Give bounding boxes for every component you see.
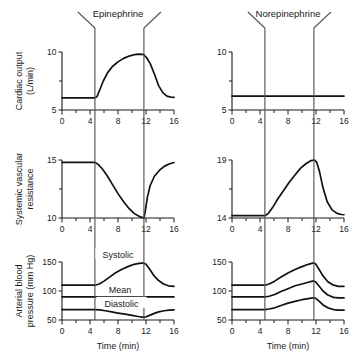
x-tick-label: 16 xyxy=(169,224,179,234)
y-axis-title-arterial-blood-pressure: Arterial bloodpressure (mm Hg) xyxy=(14,255,35,328)
y-axis-title-line1: Cardiac output xyxy=(14,51,24,110)
y-tick-label: 150 xyxy=(212,257,226,267)
curve-label-text-diastolic: Diastolic xyxy=(104,299,139,309)
x-tick-label: 8 xyxy=(116,224,121,234)
panel-title-norepinephrine: Norepinephrine xyxy=(256,8,321,19)
x-tick-label: 16 xyxy=(339,116,349,126)
x-axis-title-norepinephrine: Time (min) xyxy=(267,341,310,351)
x-tick-label: 12 xyxy=(141,116,151,126)
curve-systemic-vascular-resistance xyxy=(232,160,344,216)
curve-label-text-systolic: Systolic xyxy=(102,250,134,260)
physiology-figure: 5100481216510048121610150481216141904812… xyxy=(0,0,354,362)
curve-mean xyxy=(232,281,344,298)
x-tick-label: 0 xyxy=(60,224,65,234)
x-tick-label: 0 xyxy=(230,326,235,336)
panel-svr-epinephrine: 10150481216 xyxy=(47,155,179,234)
x-tick-label: 0 xyxy=(230,116,235,126)
curve-diastolic xyxy=(62,310,174,318)
x-tick-label: 12 xyxy=(141,326,151,336)
panel-cardiac-output-epinephrine: 5100481216 xyxy=(47,47,179,126)
x-tick-label: 12 xyxy=(311,224,321,234)
x-tick-label: 0 xyxy=(60,326,65,336)
x-tick-label: 4 xyxy=(258,116,263,126)
y-axis-title-line2: pressure (mm Hg) xyxy=(25,255,35,328)
panel-cardiac-output-norepinephrine: 5100481216 xyxy=(217,47,349,126)
x-tick-label: 8 xyxy=(286,326,291,336)
x-tick-label: 4 xyxy=(88,116,93,126)
x-tick-label: 16 xyxy=(339,224,349,234)
panel-svr-norepinephrine: 14190481216 xyxy=(217,155,349,234)
curve-label-diastolic: Diastolic xyxy=(96,297,146,309)
y-tick-label: 19 xyxy=(217,155,227,165)
x-tick-label: 8 xyxy=(286,224,291,234)
curve-diastolic xyxy=(232,298,344,310)
curve-systolic xyxy=(232,263,344,286)
x-tick-label: 4 xyxy=(88,224,93,234)
x-tick-label: 16 xyxy=(169,116,179,126)
x-tick-label: 0 xyxy=(60,116,65,126)
y-axis-title-line1: Arterial blood xyxy=(14,264,24,317)
y-tick-label: 150 xyxy=(42,257,56,267)
x-tick-label: 4 xyxy=(88,326,93,336)
catecholamine-response-chart: 5100481216510048121610150481216141904812… xyxy=(0,0,354,362)
y-tick-label: 15 xyxy=(47,155,57,165)
panel-abp-epinephrine: 501001500481216 xyxy=(42,257,179,336)
panel-abp-norepinephrine: 501001500481216 xyxy=(212,257,349,336)
curve-label-mean: Mean xyxy=(107,283,133,295)
x-tick-label: 4 xyxy=(258,224,263,234)
y-tick-label: 50 xyxy=(47,315,57,325)
y-tick-label: 5 xyxy=(222,105,227,115)
curve-cardiac-output xyxy=(62,54,174,98)
y-axis-title-line2: (L/min) xyxy=(25,67,35,95)
y-tick-label: 14 xyxy=(217,213,227,223)
x-axis-title-epinephrine: Time (min) xyxy=(97,341,140,351)
y-tick-label: 10 xyxy=(217,47,227,57)
x-tick-label: 8 xyxy=(116,326,121,336)
y-axis-title-line2: resistance xyxy=(25,168,35,209)
y-tick-label: 10 xyxy=(47,47,57,57)
y-tick-label: 100 xyxy=(42,286,56,296)
x-tick-label: 12 xyxy=(311,116,321,126)
x-tick-label: 16 xyxy=(339,326,349,336)
infusion-markers-epinephrine xyxy=(78,12,161,320)
curve-label-text-mean: Mean xyxy=(109,285,132,295)
x-tick-label: 8 xyxy=(286,116,291,126)
y-axis-title-line1: Systemic vascular xyxy=(14,153,24,226)
x-tick-label: 12 xyxy=(311,326,321,336)
y-tick-label: 10 xyxy=(47,213,57,223)
curve-label-systolic: Systolic xyxy=(95,248,140,260)
x-tick-label: 16 xyxy=(169,326,179,336)
y-axis-title-systemic-vascular-resistance: Systemic vascularresistance xyxy=(14,153,35,226)
x-tick-label: 4 xyxy=(258,326,263,336)
x-tick-label: 12 xyxy=(141,224,151,234)
y-tick-label: 50 xyxy=(217,315,227,325)
curve-systemic-vascular-resistance xyxy=(62,162,174,218)
x-tick-label: 8 xyxy=(116,116,121,126)
panel-title-epinephrine: Epinephrine xyxy=(93,8,144,19)
y-tick-label: 5 xyxy=(52,105,57,115)
x-tick-label: 0 xyxy=(230,224,235,234)
marker-leader-infusion_end xyxy=(144,12,161,28)
y-tick-label: 100 xyxy=(212,286,226,296)
y-axis-title-cardiac-output: Cardiac output(L/min) xyxy=(14,51,35,110)
curve-systolic xyxy=(62,263,174,286)
